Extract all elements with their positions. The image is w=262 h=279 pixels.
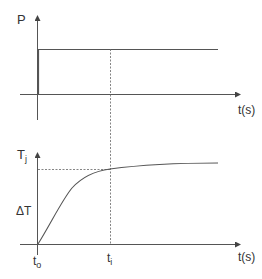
tj-response-curve [38,163,218,244]
power-step-curve [39,50,219,95]
power-x-label: t(s) [238,104,255,116]
tj-y-label: Tj [17,148,27,164]
delta-t-label: ΔT [16,205,31,217]
t0-label: to [33,255,41,270]
temperature-plot [20,153,240,255]
power-y-label: P [17,13,26,26]
tj-main: T [17,147,25,162]
tj-sub: j [25,154,27,164]
power-plot [20,16,240,244]
ti-sub: i [110,257,112,267]
ti-label: ti [107,252,112,267]
tj-x-label: t(s) [238,251,255,263]
thermal-response-diagram [0,0,262,279]
t0-sub: o [36,260,41,270]
